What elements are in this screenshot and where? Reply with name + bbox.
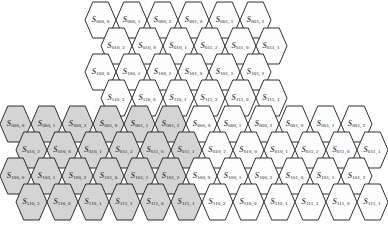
hex-cell: S111, 0 bbox=[326, 184, 357, 220]
hex-cell: S110, 0 bbox=[233, 184, 264, 220]
hex-cell: S110, 2 bbox=[202, 184, 233, 220]
hex-cell: S111, 1 bbox=[171, 184, 202, 220]
hex-cell: S111, 0 bbox=[140, 184, 171, 220]
hex-cell: S111, 2 bbox=[109, 184, 140, 220]
hex-cell: S111, 1 bbox=[357, 184, 388, 220]
figure-caption bbox=[6, 217, 368, 228]
hex-cell: S110, 2 bbox=[16, 184, 47, 220]
hex-cell: S110, 0 bbox=[47, 184, 78, 220]
hex-cell: S111, 2 bbox=[295, 184, 326, 220]
hex-cell: S110, 1 bbox=[78, 184, 109, 220]
hex-cell: S110, 1 bbox=[264, 184, 295, 220]
